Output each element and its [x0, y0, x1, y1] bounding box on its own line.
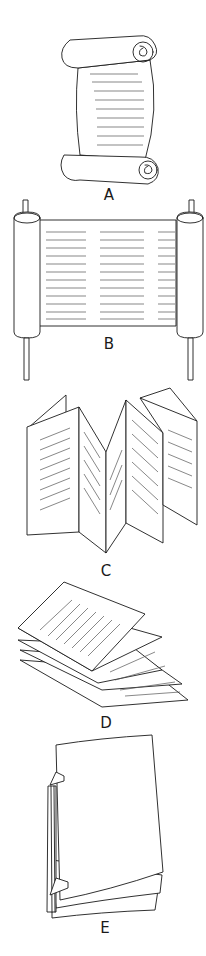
- scroll-a-illustration: [61, 36, 158, 184]
- panel-label-c: C: [91, 563, 121, 579]
- panel-label-a: A: [94, 187, 124, 203]
- scroll-b-illustration: [14, 200, 203, 380]
- panel-label-e: E: [90, 920, 120, 936]
- panel-label-d: D: [91, 715, 121, 731]
- book-forms-diagram: [0, 0, 206, 956]
- book-e-illustration: [47, 735, 163, 918]
- panel-label-b: B: [94, 336, 124, 352]
- accordion-c-illustration: [27, 388, 197, 553]
- sheets-d-illustration: [18, 582, 188, 707]
